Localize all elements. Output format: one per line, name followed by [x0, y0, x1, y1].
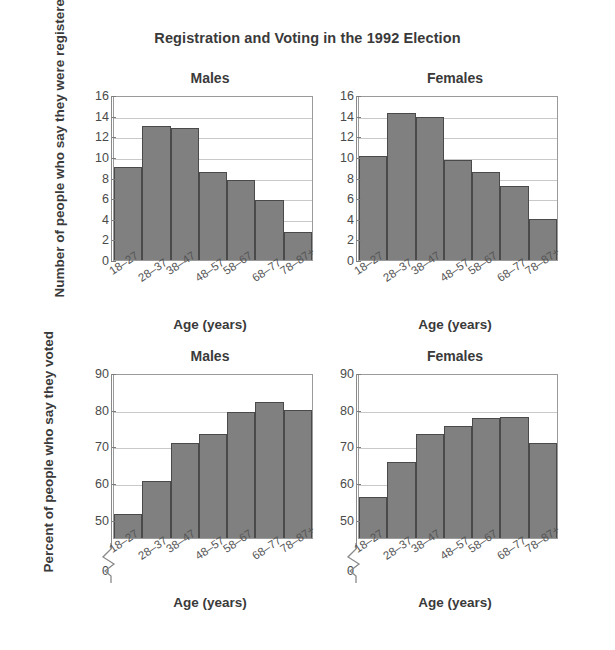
bar-series-males-registered: [114, 97, 312, 260]
xaxis-tick-labels-females-voted: 18–2728–3738–4748–5758–6768–7778–87+: [358, 543, 558, 589]
yaxis-tick-label: 2: [347, 233, 354, 247]
bar[interactable]: [255, 402, 283, 538]
plot-area-males-voted: [113, 374, 313, 539]
yaxis-tick-label: 90: [340, 367, 354, 381]
bar[interactable]: [472, 418, 500, 538]
yaxis-tick-label: 16: [340, 89, 354, 103]
yaxis-tick-label: 14: [340, 110, 354, 124]
yaxis-title-voted: Percent of people who say they voted: [41, 373, 56, 573]
yaxis-tick-label: 10: [95, 151, 109, 165]
xaxis-title-males-registered: Age (years): [105, 317, 315, 332]
xaxis-tick-labels-males-registered: 18–2728–3738–4748–5758–6768–7778–87+: [113, 265, 313, 311]
panel-males-registered: Males 024681012141618–2728–3738–4748–575…: [105, 70, 315, 320]
plot-area-females-registered: [358, 96, 558, 261]
bar[interactable]: [387, 462, 415, 538]
bar[interactable]: [444, 160, 472, 260]
bar[interactable]: [416, 117, 444, 260]
figure-root: Registration and Voting in the 1992 Elec…: [0, 0, 615, 650]
yaxis-tick-label: 50: [340, 514, 354, 528]
panel-females-registered: Females 024681012141618–2728–3738–4748–5…: [350, 70, 560, 320]
bar[interactable]: [500, 186, 528, 260]
xaxis-title-males-voted: Age (years): [105, 595, 315, 610]
yaxis-tick-label: 60: [95, 477, 109, 491]
xaxis-title-females-registered: Age (years): [350, 317, 560, 332]
bar[interactable]: [444, 426, 472, 538]
plot-area-males-registered: [113, 96, 313, 261]
yaxis-ticks-males-voted: 05060708090: [75, 374, 109, 539]
bar[interactable]: [500, 417, 528, 538]
xaxis-tick-labels-males-voted: 18–2728–3738–4748–5758–6768–7778–87+: [113, 543, 313, 589]
panel-males-voted: Males 0506070809018–2728–3738–4748–5758–…: [105, 348, 315, 598]
yaxis-tick-label: 8: [102, 172, 109, 186]
yaxis-tick-label: 60: [340, 477, 354, 491]
bar[interactable]: [199, 172, 227, 260]
panel-title-females-voted: Females: [350, 348, 560, 364]
yaxis-tick-label: 2: [102, 233, 109, 247]
bar[interactable]: [227, 180, 255, 260]
yaxis-spine-males-voted: [111, 374, 112, 549]
yaxis-tick-label: 14: [95, 110, 109, 124]
panel-title-females-registered: Females: [350, 70, 560, 86]
yaxis-tick-label: 80: [340, 404, 354, 418]
bar-series-males-voted: [114, 375, 312, 538]
bar[interactable]: [387, 113, 415, 260]
bar[interactable]: [472, 172, 500, 260]
yaxis-ticks-males-registered: 0246810121416: [75, 96, 109, 261]
yaxis-tick-label: 50: [95, 514, 109, 528]
yaxis-ticks-females-registered: 0246810121416: [320, 96, 354, 261]
yaxis-spine-females-registered: [356, 96, 357, 261]
xaxis-title-females-voted: Age (years): [350, 595, 560, 610]
yaxis-tick-label: 6: [347, 192, 354, 206]
bar[interactable]: [114, 167, 142, 260]
yaxis-tick-label: 8: [347, 172, 354, 186]
bar[interactable]: [255, 200, 283, 260]
xaxis-tick-labels-females-registered: 18–2728–3738–4748–5758–6768–7778–87+: [358, 265, 558, 311]
bar[interactable]: [416, 434, 444, 539]
bar-series-females-registered: [359, 97, 557, 260]
yaxis-title-registered: Number of people who say they were regis…: [52, 68, 67, 298]
panel-title-males-voted: Males: [105, 348, 315, 364]
yaxis-tick-label: 70: [95, 440, 109, 454]
bar[interactable]: [284, 410, 312, 538]
yaxis-spine-females-voted: [356, 374, 357, 549]
plot-area-females-voted: [358, 374, 558, 539]
bar[interactable]: [359, 156, 387, 260]
yaxis-tick-label: 6: [102, 192, 109, 206]
yaxis-tick-label: 70: [340, 440, 354, 454]
bar[interactable]: [171, 443, 199, 538]
yaxis-tick-label: 12: [340, 130, 354, 144]
bar[interactable]: [227, 412, 255, 538]
bar[interactable]: [142, 126, 170, 260]
yaxis-tick-label: 80: [95, 404, 109, 418]
yaxis-ticks-females-voted: 05060708090: [320, 374, 354, 539]
yaxis-tick-label: 16: [95, 89, 109, 103]
bar-series-females-voted: [359, 375, 557, 538]
bar[interactable]: [142, 481, 170, 538]
bar[interactable]: [199, 434, 227, 538]
yaxis-tick-label: 4: [102, 213, 109, 227]
bar[interactable]: [171, 128, 199, 260]
yaxis-tick-label: 90: [95, 367, 109, 381]
yaxis-tick-label: 12: [95, 130, 109, 144]
yaxis-tick-label: 4: [347, 213, 354, 227]
yaxis-spine-males-registered: [111, 96, 112, 261]
panel-females-voted: Females 0506070809018–2728–3738–4748–575…: [350, 348, 560, 598]
yaxis-tick-label: 10: [340, 151, 354, 165]
figure-title: Registration and Voting in the 1992 Elec…: [0, 30, 615, 46]
panel-title-males-registered: Males: [105, 70, 315, 86]
